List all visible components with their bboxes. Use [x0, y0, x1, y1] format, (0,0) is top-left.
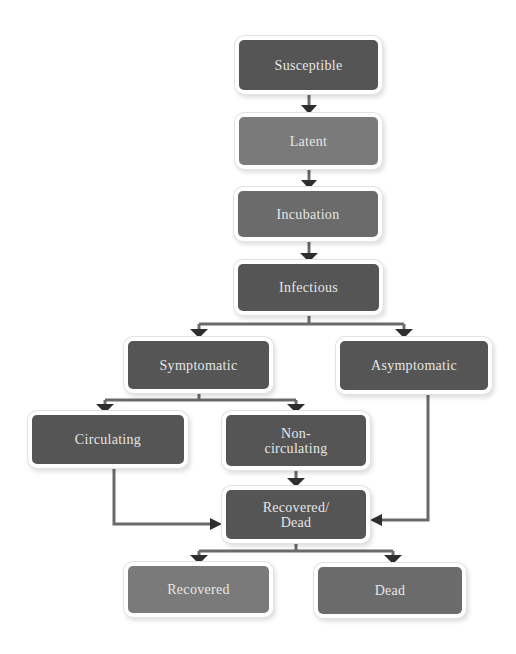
node-label: Recovered [167, 582, 230, 597]
node-non-circulating: Non- circulating [226, 415, 366, 466]
node-infectious: Infectious [238, 264, 379, 311]
arrowhead [190, 555, 208, 564]
node-label: Infectious [279, 280, 338, 295]
arrowhead [300, 253, 318, 262]
node-label: Incubation [277, 207, 340, 222]
arrowhead [395, 329, 413, 338]
node-incubation: Incubation [238, 191, 378, 237]
node-label-line-1: Non- [281, 426, 311, 441]
node-label: Dead [375, 583, 406, 598]
node-label: Symptomatic [160, 358, 238, 373]
arrowhead [301, 180, 317, 189]
edge-symptomatic-split [105, 394, 296, 400]
arrowhead [384, 555, 402, 564]
arrowhead [210, 518, 222, 530]
edge-asym-recdead [380, 395, 428, 520]
arrowhead [287, 404, 305, 413]
edge-infectious-split [199, 316, 404, 324]
node-latent: Latent [239, 117, 378, 165]
node-recovered: Recovered [128, 566, 269, 613]
node-label: Circulating [75, 432, 141, 447]
arrowhead [96, 404, 114, 413]
node-label: Latent [290, 134, 328, 149]
arrowhead [190, 329, 208, 338]
node-label: Susceptible [275, 58, 343, 73]
node-symptomatic: Symptomatic [128, 341, 269, 389]
node-dead: Dead [318, 567, 462, 614]
node-susceptible: Susceptible [239, 40, 378, 90]
arrowhead [287, 478, 305, 487]
arrowhead [370, 514, 382, 526]
edge-circ-recdead [114, 469, 212, 524]
node-label-line-2: circulating [264, 441, 327, 456]
node-label: Asymptomatic [371, 358, 457, 373]
edge-recdead-split [199, 544, 393, 551]
node-circulating: Circulating [32, 415, 184, 464]
node-label-line-2: Dead [281, 515, 312, 530]
arrowhead [301, 105, 317, 114]
node-asymptomatic: Asymptomatic [340, 341, 488, 390]
node-recovered-dead: Recovered/ Dead [226, 490, 366, 539]
node-label-line-1: Recovered/ [263, 500, 330, 515]
connectors [0, 0, 516, 654]
